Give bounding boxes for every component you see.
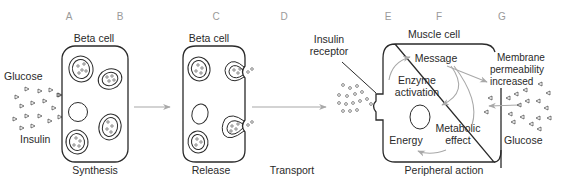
membrane-label-line2: permeability — [490, 64, 544, 75]
insulin-receptor-label-line2: receptor — [310, 45, 349, 57]
muscle-cell-label: Muscle cell — [408, 28, 460, 40]
enzyme-label-line2: activation — [395, 86, 440, 98]
metabolic-label-line1: Metabolic — [436, 122, 481, 134]
enzyme-label-line1: Enzyme — [398, 74, 436, 86]
beta-cell-synthesis — [62, 46, 128, 162]
message-label: Message — [415, 52, 458, 64]
caption-transport: Transport — [270, 164, 315, 176]
insulin-label-left: Insulin — [20, 133, 51, 145]
stage-letter-d: D — [280, 11, 287, 22]
caption-release: Release — [192, 164, 231, 176]
glucose-molecules-right — [484, 82, 551, 131]
beta-cell-label-1: Beta cell — [74, 32, 114, 44]
glucose-label-right: Glucose — [504, 134, 543, 146]
caption-peripheral-action: Peripheral action — [405, 164, 484, 176]
stage-letter-a: A — [66, 11, 73, 22]
insulin-action-diagram: A B C D E F G Beta cell Glucose Insulin — [0, 0, 567, 187]
beta-cell-label-2: Beta cell — [189, 32, 229, 44]
metabolic-label-line2: effect — [445, 134, 471, 146]
panel-peripheral: Insulin receptor Muscle cell Message Enz… — [310, 28, 551, 176]
stage-letter-b: B — [117, 11, 124, 22]
membrane-label-line1: Membrane — [497, 52, 545, 63]
glucose-molecules-left — [13, 87, 62, 130]
nucleus — [69, 103, 88, 122]
glucose-label-left: Glucose — [4, 70, 43, 82]
stage-letters: A B C D E F G — [66, 11, 506, 22]
insulin-receptor-label-line1: Insulin — [314, 33, 345, 45]
receptor-pointer-line — [342, 62, 376, 93]
insulin-molecules — [338, 84, 373, 113]
stage-letter-g: G — [498, 11, 506, 22]
muscle-nucleus — [410, 105, 430, 129]
panel-release: Beta cell Release — [183, 32, 253, 176]
energy-label: Energy — [389, 134, 423, 146]
stage-letter-e: E — [385, 11, 392, 22]
stage-letter-f: F — [436, 11, 442, 22]
membrane-label-line3: increased — [490, 76, 533, 87]
stage-letter-c: C — [212, 11, 219, 22]
caption-synthesis: Synthesis — [72, 164, 118, 176]
panel-synthesis: Beta cell Glucose Insulin — [4, 32, 128, 176]
insulin-granules-synthesis — [64, 53, 125, 155]
